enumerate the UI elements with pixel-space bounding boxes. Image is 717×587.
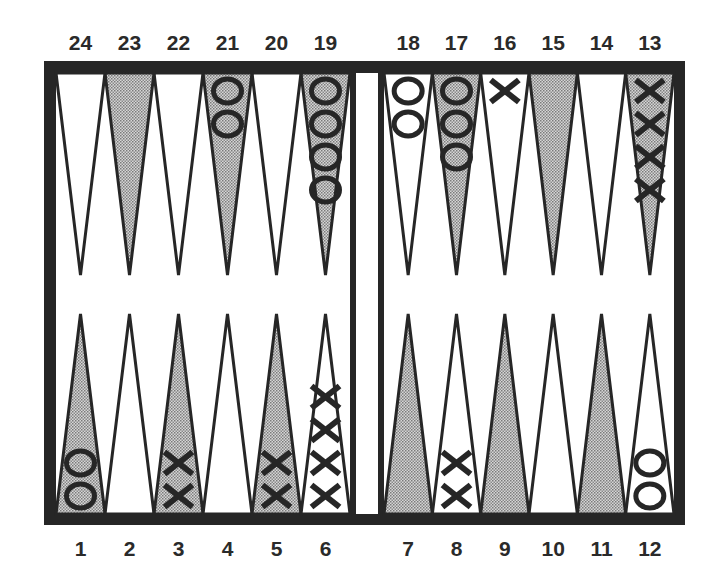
bar[interactable]	[356, 73, 378, 514]
point-label-18: 18	[388, 31, 428, 55]
point-label-9: 9	[485, 537, 525, 561]
point-label-3: 3	[159, 537, 199, 561]
point-label-19: 19	[306, 31, 346, 55]
point-label-16: 16	[485, 31, 525, 55]
point-label-20: 20	[257, 31, 297, 55]
point-label-12: 12	[630, 537, 670, 561]
right-field	[384, 73, 674, 514]
point-label-10: 10	[533, 537, 573, 561]
point-label-6: 6	[306, 537, 346, 561]
point-label-7: 7	[388, 537, 428, 561]
point-label-5: 5	[257, 537, 297, 561]
point-label-4: 4	[208, 537, 248, 561]
point-label-13: 13	[630, 31, 670, 55]
point-label-11: 11	[582, 537, 622, 561]
point-label-8: 8	[437, 537, 477, 561]
point-label-14: 14	[582, 31, 622, 55]
point-label-15: 15	[533, 31, 573, 55]
point-label-23: 23	[110, 31, 150, 55]
point-label-24: 24	[61, 31, 101, 55]
backgammon-board	[0, 0, 717, 587]
point-label-21: 21	[208, 31, 248, 55]
point-label-17: 17	[437, 31, 477, 55]
point-label-1: 1	[61, 537, 101, 561]
point-label-22: 22	[159, 31, 199, 55]
left-field	[56, 73, 350, 514]
point-label-2: 2	[110, 537, 150, 561]
